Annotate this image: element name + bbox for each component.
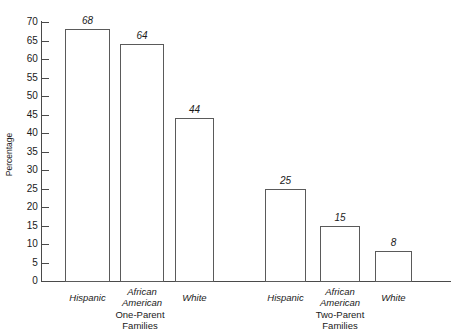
bar-value-label: 44 xyxy=(175,104,214,115)
y-axis-tick xyxy=(42,115,49,116)
bar xyxy=(320,226,360,283)
y-axis-tick xyxy=(42,22,49,23)
bar-chart: 7065605550454035302520151050 Percentage … xyxy=(0,0,462,336)
y-axis-tick xyxy=(42,263,49,264)
y-axis-tick xyxy=(42,281,49,282)
y-axis-tick xyxy=(42,133,49,134)
y-axis-tick-label: 70 xyxy=(4,17,38,27)
y-axis-tick xyxy=(42,59,49,60)
group-label-line: Families xyxy=(80,320,200,331)
y-axis-tick xyxy=(42,152,49,153)
y-axis-tick-label: 0 xyxy=(4,276,38,286)
category-label-line: White xyxy=(161,292,228,303)
y-axis-tick xyxy=(42,96,49,97)
y-axis-tick xyxy=(42,78,49,79)
bar xyxy=(175,118,214,282)
x-axis-group-label: One-ParentFamilies xyxy=(80,309,200,331)
bar-value-label: 64 xyxy=(120,30,164,41)
category-label-line: White xyxy=(361,292,426,303)
y-axis-tick xyxy=(42,226,49,227)
bar-value-label: 68 xyxy=(65,15,110,26)
bar xyxy=(65,29,110,282)
y-axis-tick xyxy=(42,189,49,190)
x-axis-category-label: White xyxy=(161,292,228,303)
y-axis-tick-label: 10 xyxy=(4,239,38,249)
bar-value-label: 15 xyxy=(320,212,360,223)
y-axis-tick xyxy=(42,244,49,245)
bar-value-label: 8 xyxy=(375,237,412,248)
group-label-line: Two-Parent xyxy=(280,309,400,320)
y-axis-tick-label: 5 xyxy=(4,258,38,268)
bar xyxy=(265,189,306,283)
y-axis-tick-label: 65 xyxy=(4,36,38,46)
y-axis-title: Percentage xyxy=(5,115,14,195)
x-axis-group-label: Two-ParentFamilies xyxy=(280,309,400,331)
y-axis-tick-label: 50 xyxy=(4,91,38,101)
bar xyxy=(120,44,164,282)
y-axis-tick-label: 55 xyxy=(4,73,38,83)
y-axis-tick-label: 60 xyxy=(4,54,38,64)
bar xyxy=(375,251,412,282)
x-axis-category-label: White xyxy=(361,292,426,303)
y-axis-tick xyxy=(42,207,49,208)
group-label-line: One-Parent xyxy=(80,309,200,320)
bar-value-label: 25 xyxy=(265,175,306,186)
group-label-line: Families xyxy=(280,320,400,331)
y-axis-tick-label: 20 xyxy=(4,202,38,212)
y-axis-tick xyxy=(42,41,49,42)
y-axis-tick-label: 15 xyxy=(4,221,38,231)
y-axis-tick xyxy=(42,170,49,171)
